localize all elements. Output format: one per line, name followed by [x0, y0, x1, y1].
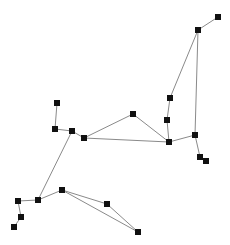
node-n1[interactable]: [215, 14, 221, 20]
edge-n6-n7: [195, 135, 200, 157]
node-n11[interactable]: [69, 128, 75, 134]
edge-n2-n3: [170, 30, 198, 98]
node-n7[interactable]: [197, 154, 203, 160]
node-n3[interactable]: [167, 95, 173, 101]
node-n8[interactable]: [203, 158, 209, 164]
edge-n4-n5: [167, 120, 169, 142]
node-n10[interactable]: [81, 135, 87, 141]
edge-n2-n6: [195, 30, 198, 135]
node-n16[interactable]: [18, 214, 24, 220]
edges-layer: [14, 17, 218, 232]
edge-n11-n14: [38, 131, 72, 200]
edge-n5-n6: [169, 135, 195, 142]
node-n15[interactable]: [15, 198, 21, 204]
node-n20[interactable]: [135, 229, 141, 235]
nodes-layer: [11, 14, 221, 235]
node-n9[interactable]: [130, 111, 136, 117]
node-n18[interactable]: [59, 187, 65, 193]
node-n13[interactable]: [54, 100, 60, 106]
node-n19[interactable]: [104, 201, 110, 207]
network-graph: [0, 0, 230, 245]
node-n2[interactable]: [195, 27, 201, 33]
node-n6[interactable]: [192, 132, 198, 138]
edge-n18-n20: [62, 190, 138, 232]
node-n4[interactable]: [164, 117, 170, 123]
node-n17[interactable]: [11, 224, 17, 230]
edge-n5-n10: [84, 138, 169, 142]
edge-n3-n4: [167, 98, 170, 120]
node-n5[interactable]: [166, 139, 172, 145]
edge-n5-n9: [133, 114, 169, 142]
edge-n9-n10: [84, 114, 133, 138]
edge-n14-n18: [38, 190, 62, 200]
node-n12[interactable]: [52, 126, 58, 132]
node-n14[interactable]: [35, 197, 41, 203]
edge-n12-n13: [55, 103, 57, 129]
